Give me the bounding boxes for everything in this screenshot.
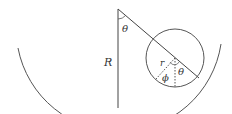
large-arc [18,44,221,114]
theta-small-label: θ [178,66,184,77]
r-label: r [160,58,165,68]
phi-label: ϕ [162,72,169,83]
rolling-circle-diagram: θ R r ϕ θ [0,0,232,114]
theta-angle-arc [118,16,126,20]
theta-top-label: θ [122,23,128,34]
R-label: R [103,56,112,69]
slanted-radius-line [118,9,199,78]
